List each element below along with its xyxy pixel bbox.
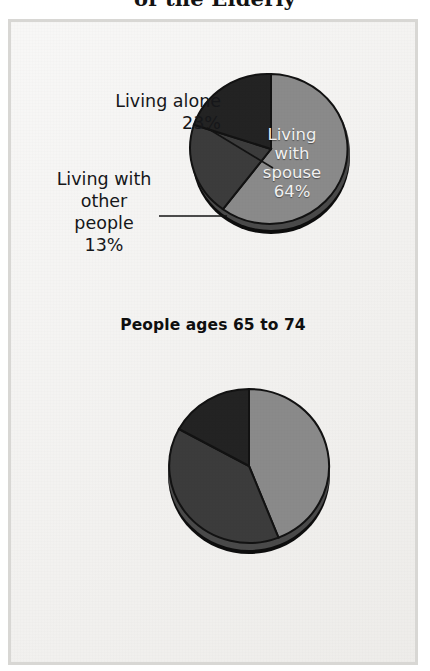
pie-chart-65-to-74: Living with spouse 64% Living alone 23% … <box>11 30 415 335</box>
page-title: of the Elderly <box>0 0 430 11</box>
pie-graphic-2 <box>163 378 335 560</box>
pie-callout-living-alone-1: Living alone 23% <box>35 90 221 134</box>
chart-caption-65-to-74: People ages 65 to 74 <box>11 316 415 334</box>
pie-callout-other-people-1: Living with other people 13% <box>23 168 185 256</box>
pie-svg-2 <box>163 378 335 560</box>
pie-chart-75-and-over: Living with spouse 44% Living alone 39% … <box>11 344 415 660</box>
figure-panel: Living with spouse 64% Living alone 23% … <box>8 19 418 665</box>
